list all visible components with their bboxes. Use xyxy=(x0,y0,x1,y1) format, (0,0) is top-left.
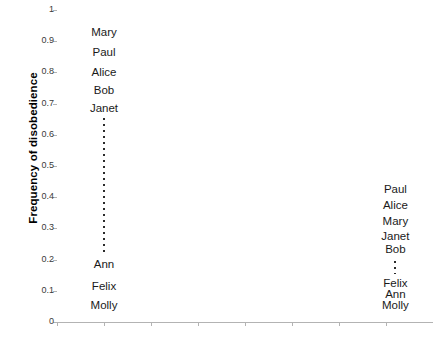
x-tick-mark xyxy=(386,322,387,326)
y-tick-label: 0.6 xyxy=(41,129,54,140)
y-axis-title: Frequency of disobedience xyxy=(27,58,39,238)
data-point-label: Alice xyxy=(383,199,408,211)
y-tick-label: 0.5 xyxy=(41,160,54,171)
data-point-label: Ann xyxy=(94,258,114,270)
chart-figure: Frequency of disobedience 00.10.20.30.40… xyxy=(0,0,433,343)
ellipsis-dots xyxy=(394,261,396,273)
data-point-label: Mary xyxy=(383,215,409,227)
y-tick-label: 0.2 xyxy=(41,254,54,265)
data-point-label: Mary xyxy=(91,26,117,38)
y-tick-label: 0.7 xyxy=(41,98,54,109)
data-point-label: Felix xyxy=(92,280,116,292)
data-point-label: Alice xyxy=(92,66,117,78)
x-tick-mark xyxy=(245,322,246,326)
y-tick-label: 0.9 xyxy=(41,35,54,46)
data-point-label: Molly xyxy=(91,299,118,311)
x-tick-mark xyxy=(292,322,293,326)
x-tick-mark xyxy=(198,322,199,326)
x-tick-mark xyxy=(104,322,105,326)
y-tick-label: 0.8 xyxy=(41,66,54,77)
data-point-label: Paul xyxy=(384,183,407,195)
data-point-label: Molly xyxy=(382,299,409,311)
plot-area: MaryPaulAliceBobJanetAnnFelixMollyPaulAl… xyxy=(57,10,433,322)
x-tick-mark xyxy=(151,322,152,326)
y-tick-label: 1 xyxy=(49,4,54,15)
y-tick-label: 0.4 xyxy=(41,191,54,202)
data-point-label: Janet xyxy=(381,230,409,242)
y-tick-label: 0.3 xyxy=(41,222,54,233)
data-point-label: Bob xyxy=(94,84,114,96)
x-tick-mark xyxy=(57,322,58,326)
ellipsis-dots xyxy=(103,118,105,257)
x-tick-mark xyxy=(339,322,340,326)
data-point-label: Bob xyxy=(385,243,405,255)
data-point-label: Paul xyxy=(92,46,115,58)
y-tick-label: 0 xyxy=(49,316,54,327)
data-point-label: Janet xyxy=(90,102,118,114)
y-tick-label: 0.1 xyxy=(41,285,54,296)
